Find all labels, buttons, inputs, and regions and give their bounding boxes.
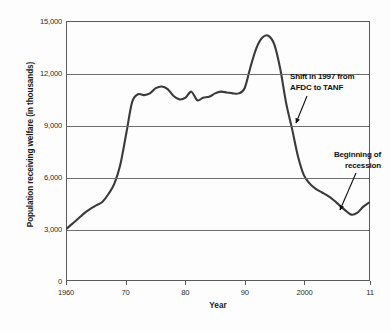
welfare-population-line bbox=[67, 22, 369, 280]
x-tick-label-1990: 90 bbox=[241, 288, 249, 297]
x-tick-mark-2011 bbox=[370, 281, 371, 285]
annotation-shift-line1: Shift in 1997 from bbox=[290, 72, 354, 83]
x-tick-label-2000: 2000 bbox=[296, 288, 312, 297]
plot-area bbox=[66, 21, 370, 281]
y-tick-label-15000: 15,000 bbox=[24, 17, 62, 26]
x-tick-mark-1960 bbox=[66, 281, 67, 285]
gridline-3000 bbox=[67, 230, 369, 231]
annotation-recession-line2: recession bbox=[334, 161, 381, 172]
y-tick-label-6000: 6,000 bbox=[24, 173, 62, 182]
gridline-6000 bbox=[67, 178, 369, 179]
gridline-9000 bbox=[67, 126, 369, 127]
annotation-shift-label: Shift in 1997 from AFDC to TANF bbox=[290, 72, 354, 93]
x-tick-mark-1970 bbox=[126, 281, 127, 285]
y-tick-label-12000: 12,000 bbox=[24, 69, 62, 78]
chart-figure: Population receiving welfare (in thousan… bbox=[0, 0, 391, 332]
annotation-shift-line2: AFDC to TANF bbox=[290, 83, 354, 94]
y-tick-label-3000: 3,000 bbox=[24, 225, 62, 234]
x-tick-mark-2000 bbox=[304, 281, 305, 285]
x-tick-label-1970: 70 bbox=[122, 288, 130, 297]
x-tick-mark-1990 bbox=[245, 281, 246, 285]
y-tick-label-9000: 9,000 bbox=[24, 121, 62, 130]
x-tick-mark-1980 bbox=[185, 281, 186, 285]
annotation-recession-line1: Beginning of bbox=[334, 150, 381, 161]
annotation-recession-label: Beginning of recession bbox=[334, 150, 381, 171]
y-axis-tick-labels: 03,0006,0009,00012,00015,000 bbox=[20, 0, 62, 332]
x-axis-title: Year bbox=[66, 301, 370, 310]
y-tick-label-0: 0 bbox=[24, 277, 62, 286]
x-tick-label-2011: 11 bbox=[366, 288, 373, 297]
x-tick-label-1980: 80 bbox=[181, 288, 189, 297]
x-tick-label-1960: 1960 bbox=[58, 288, 74, 297]
